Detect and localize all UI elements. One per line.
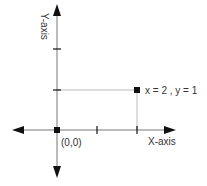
x-axis-right-arrow-icon: [164, 126, 176, 134]
point-label: x = 2 , y = 1: [145, 85, 198, 96]
x-axis-label: X-axis: [148, 136, 176, 147]
x-axis-left-arrow-icon: [12, 126, 24, 134]
point-marker: [134, 87, 140, 93]
y-axis-label: Y-axis: [39, 13, 50, 40]
coordinate-diagram: Y-axis X-axis (0,0) x = 2 , y = 1: [0, 0, 207, 186]
origin-label: (0,0): [61, 137, 82, 148]
y-axis-down-arrow-icon: [53, 166, 61, 178]
y-axis-up-arrow-icon: [53, 4, 61, 16]
origin-marker: [54, 127, 60, 133]
